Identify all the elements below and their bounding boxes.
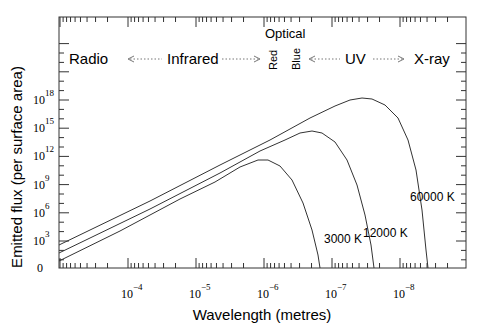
y-tick-label: 103: [33, 229, 50, 248]
y-axis-title: Emitted flux (per surface area): [8, 66, 25, 268]
label-12000k: 12000 K: [363, 226, 408, 240]
x-tick-label: 10−4: [121, 282, 143, 301]
band-infrared: Infrared: [167, 50, 219, 67]
curves: [59, 98, 428, 268]
curve-3000k: [59, 160, 320, 268]
label-60000k: 60000 K: [410, 190, 455, 204]
label-3000k: 3000 K: [324, 232, 362, 246]
band-xray: X-ray: [414, 50, 450, 67]
y-tick-label: 0: [37, 261, 43, 275]
y-tick-label: 1012: [33, 144, 54, 163]
band-red: Red: [267, 50, 279, 70]
band-radio: Radio: [69, 50, 108, 67]
band-group-optical: Optical: [265, 26, 306, 41]
band-uv: UV: [345, 50, 366, 67]
curve-12000k: [59, 131, 374, 268]
curve-60000k: [59, 98, 428, 268]
y-tick-label: 106: [33, 201, 50, 220]
band-blue: Blue: [290, 48, 302, 70]
y-tick-label: 1018: [33, 88, 55, 107]
blackbody-chart: 60000 K 12000 K 3000 K Optical Radio Inf…: [0, 0, 479, 329]
y-tick-label: 109: [33, 173, 50, 192]
y-tick-labels: 0103106109101210151018: [33, 88, 55, 275]
x-tick-label: 10−7: [325, 282, 347, 301]
x-tick-labels: 10−410−510−610−710−8: [121, 282, 415, 301]
x-tick-label: 10−8: [393, 282, 415, 301]
x-axis-title: Wavelength (metres): [193, 306, 332, 323]
y-tick-label: 1015: [33, 116, 55, 135]
x-tick-label: 10−5: [189, 282, 211, 301]
x-tick-label: 10−6: [257, 282, 279, 301]
